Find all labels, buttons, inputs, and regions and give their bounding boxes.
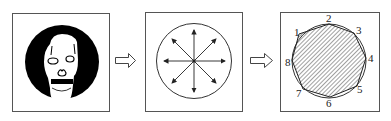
panel-octagon-approximation: 1 2 3 4 5 6 7 8 (281, 12, 380, 112)
nose (58, 70, 66, 76)
vertex-label-3: 3 (356, 24, 362, 36)
vertex-label-5: 5 (357, 83, 363, 95)
vertex-label-2: 2 (326, 12, 332, 24)
vertex-label-4: 4 (368, 52, 374, 64)
vertex-label-1: 1 (294, 26, 300, 38)
left-eye (48, 58, 58, 64)
vertex-label-7: 7 (296, 87, 302, 99)
mouth (51, 79, 73, 84)
panel-radial-directions (146, 13, 243, 112)
right-arrow-icon (251, 54, 273, 68)
panel-input-image (13, 14, 110, 112)
right-eye (66, 56, 74, 62)
vertex-label-8: 8 (285, 56, 291, 68)
right-arrow-icon (116, 54, 136, 68)
hatched-polygon (292, 24, 366, 97)
pipeline-diagram: 1 2 3 4 5 6 7 8 (0, 0, 391, 121)
vertex-label-6: 6 (326, 97, 332, 109)
